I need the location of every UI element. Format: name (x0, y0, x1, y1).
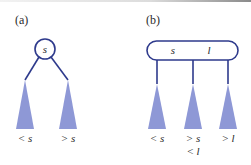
subtree-label-second-line: < l (186, 145, 199, 157)
edge-right (51, 57, 68, 80)
subtree-label: > s (186, 132, 200, 144)
three-node-key-small: s (171, 44, 175, 56)
subtree-between-s-and-l (184, 84, 202, 129)
panel-b-three-node: (b) s l < s > s < l > l (146, 13, 238, 157)
subtree-label: < s (150, 132, 164, 144)
panel-b-label: (b) (146, 13, 160, 27)
subtree-greater-than-l (219, 84, 237, 129)
three-node-pill (147, 41, 238, 60)
edge-left (25, 57, 39, 80)
subtree-less-than-s (148, 84, 166, 129)
diagram-canvas: (a) s < s > s (b) s l < s > s < l > l (0, 0, 251, 165)
panel-a-label: (a) (15, 13, 28, 27)
subtree-greater-than-s (59, 80, 77, 129)
panel-a-two-node: (a) s < s > s (15, 13, 77, 144)
two-node-key: s (43, 43, 47, 55)
top-edge-bar (0, 0, 251, 2)
subtree-label: < s (18, 132, 32, 144)
subtree-less-than-s (16, 80, 34, 129)
subtree-label: > l (221, 132, 234, 144)
three-node-key-large: l (207, 44, 210, 56)
subtree-label: > s (61, 132, 75, 144)
